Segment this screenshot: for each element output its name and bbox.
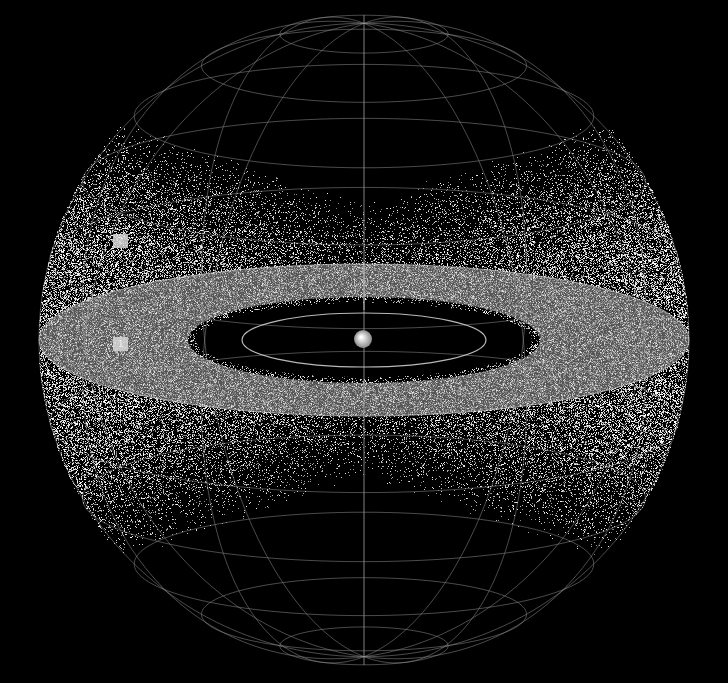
- sphere-diagram: [0, 0, 728, 683]
- marker-1: 1: [113, 337, 128, 351]
- marker-2: 2: [113, 234, 128, 248]
